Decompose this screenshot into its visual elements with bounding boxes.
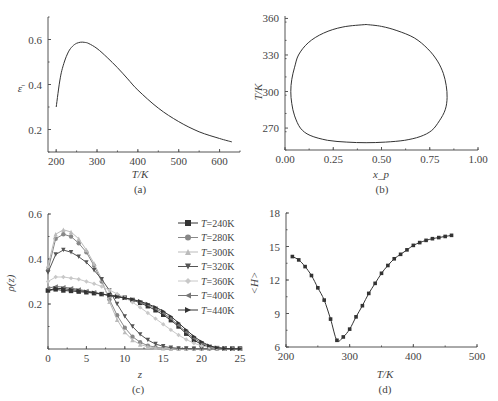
legend-label: T=400K <box>201 290 235 301</box>
square-marker-icon <box>386 264 390 268</box>
x-tick-label: 500 <box>170 155 187 167</box>
x-tick-label: 200 <box>278 350 295 362</box>
circle-marker-icon <box>185 235 191 241</box>
panel-b-ylabel: T/K <box>252 83 264 100</box>
panel-a-axes: 2003004005006000.20.40.6 <box>28 17 240 167</box>
x-tick-label: 5 <box>84 352 90 364</box>
panel-d-chart: 20030040050069121518 <H> T/K (d) <box>248 207 486 396</box>
square-marker-icon <box>399 253 403 257</box>
figure-canvas: 2003004005006000.20.40.6 ε̄ T/K (a) 0.00… <box>0 0 498 401</box>
panel-c-caption: (c) <box>132 383 145 396</box>
y-tick-label: 12 <box>269 274 280 286</box>
diamond-marker-icon <box>84 279 88 283</box>
square-marker-icon <box>303 265 307 269</box>
square-marker-icon <box>316 286 320 290</box>
square-marker-icon <box>367 292 371 296</box>
panel-a-caption: (a) <box>134 183 147 196</box>
square-marker-icon <box>424 239 428 243</box>
legend-item: T=320K <box>178 261 235 272</box>
square-marker-icon <box>431 237 435 241</box>
y-tick-label: 360 <box>263 12 280 24</box>
legend-label: T=280K <box>201 232 235 243</box>
x-tick-label: 0.50 <box>372 153 392 165</box>
diamond-marker-icon <box>77 277 81 281</box>
triangle-down-marker-icon <box>46 270 50 274</box>
triangle-left-marker-icon <box>185 293 191 299</box>
y-tick-label: 0.6 <box>28 34 42 46</box>
circle-marker-icon <box>61 232 65 236</box>
legend-label: T=440K <box>201 305 235 316</box>
triangle-down-marker-icon <box>146 338 150 342</box>
triangle-right-marker-icon <box>185 307 191 313</box>
legend-item: T=280K <box>178 232 235 243</box>
y-tick-label: 15 <box>269 241 281 253</box>
panel-a-ylabel: ε̄ <box>18 82 25 94</box>
panel-c-xlabel: z <box>137 368 143 380</box>
diamond-marker-icon <box>46 279 50 283</box>
y-tick-label: 0.2 <box>28 298 42 310</box>
x-tick-label: 1.00 <box>468 153 488 165</box>
y-tick-label: 0.4 <box>28 253 42 265</box>
square-marker-icon <box>412 244 416 248</box>
x-tick-label: 600 <box>211 155 228 167</box>
diamond-marker-icon <box>69 276 73 280</box>
panel-c-ylabel: ρ(z) <box>4 274 17 292</box>
panel-b-curve <box>291 25 447 143</box>
triangle-up-marker-icon <box>53 232 57 236</box>
diamond-marker-icon <box>184 337 188 341</box>
panel-b-chart: 0.000.250.500.751.00270300330360 T/K x_p… <box>252 12 488 196</box>
square-marker-icon <box>297 258 301 262</box>
legend-item: T=240K <box>178 218 235 229</box>
x-tick-label: 10 <box>119 352 131 364</box>
square-marker-icon <box>405 248 409 252</box>
y-tick-label: 9 <box>275 308 281 320</box>
panel-b-xlabel: x_p <box>372 168 389 180</box>
square-marker-icon <box>185 220 191 226</box>
square-marker-icon <box>443 235 447 239</box>
square-marker-icon <box>329 317 333 321</box>
x-tick-label: 400 <box>405 350 422 362</box>
x-tick-label: 200 <box>48 155 65 167</box>
square-marker-icon <box>361 304 365 308</box>
x-tick-label: 0.75 <box>420 153 440 165</box>
square-marker-icon <box>450 234 454 238</box>
panel-c-chart: 05101520250.20.40.6 T=240KT=280KT=300KT=… <box>4 208 246 396</box>
y-tick-label: 18 <box>269 207 281 219</box>
circle-marker-icon <box>69 234 73 238</box>
square-marker-icon <box>342 335 346 339</box>
x-tick-label: 300 <box>341 350 358 362</box>
diamond-marker-icon <box>185 278 191 284</box>
square-marker-icon <box>380 272 384 276</box>
square-marker-icon <box>373 282 377 286</box>
square-marker-icon <box>354 315 358 319</box>
legend-label: T=320K <box>201 261 235 272</box>
panel-d-xlabel: T/K <box>377 368 394 380</box>
x-tick-label: 15 <box>158 352 170 364</box>
y-tick-label: 330 <box>263 49 280 61</box>
x-tick-label: 400 <box>130 155 147 167</box>
legend-label: T=300K <box>201 247 235 258</box>
x-tick-label: 300 <box>89 155 106 167</box>
x-tick-label: 0.00 <box>275 153 295 165</box>
y-tick-label: 6 <box>275 341 281 353</box>
x-tick-label: 25 <box>235 352 247 364</box>
x-tick-label: 0 <box>45 352 51 364</box>
legend-item: T=440K <box>178 305 235 316</box>
legend-label: T=240K <box>201 218 235 229</box>
panel-a-xlabel: T/K <box>132 168 149 180</box>
x-tick-label: 0.25 <box>324 153 344 165</box>
diamond-marker-icon <box>92 282 96 286</box>
panel-a-curve <box>56 42 232 142</box>
square-marker-icon <box>291 255 295 259</box>
panel-d-axes: 20030040050069121518 <box>269 207 486 362</box>
diamond-marker-icon <box>53 275 57 279</box>
panel-b-caption: (b) <box>376 183 389 196</box>
legend-item: T=360K <box>178 276 235 287</box>
square-marker-icon <box>392 257 396 261</box>
triangle-down-marker-icon <box>53 252 57 256</box>
diamond-marker-icon <box>61 275 65 279</box>
y-tick-label: 300 <box>263 86 280 98</box>
square-marker-icon <box>437 236 441 240</box>
square-marker-icon <box>310 274 314 278</box>
legend-item: T=300K <box>178 247 235 258</box>
